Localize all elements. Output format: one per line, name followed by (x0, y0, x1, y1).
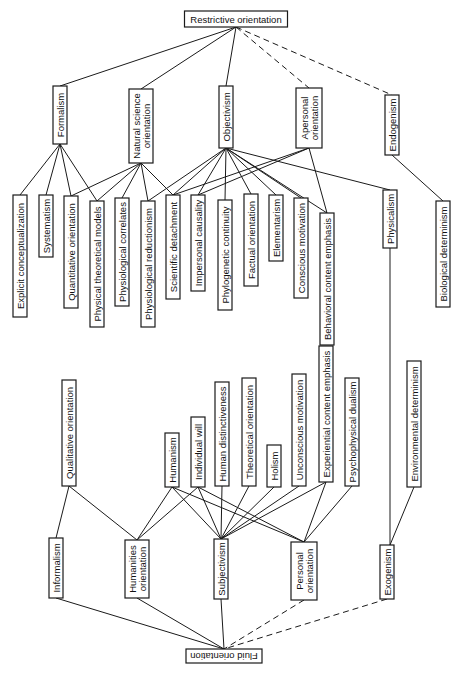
node-label: Psychophysical dualism (347, 381, 358, 482)
node-psychodual: Psychophysical dualism (345, 378, 359, 486)
edge-solid (56, 486, 69, 538)
node-label: Environmental determinism (409, 366, 420, 481)
edge-solid (198, 148, 226, 195)
node-label: Conscious motivation (296, 203, 307, 293)
node-physicalism: Physicalism (383, 190, 397, 248)
node-quantitative: Quantitative orientation (64, 196, 78, 308)
node-humdist: Human distinctiveness (215, 382, 229, 486)
node-objectivism: Objectivism (219, 86, 233, 148)
edge-dashed (224, 599, 387, 649)
node-label: Factual orientation (246, 201, 257, 279)
node-holism: Holism (267, 445, 281, 487)
diagram-nodes: Restrictive orientationFormalismNatural … (13, 11, 450, 663)
edge-solid (173, 148, 226, 195)
node-subjectivism: Subjectivism (214, 539, 228, 599)
node-endogenism: Endogenism (385, 95, 399, 155)
edge-dashed (236, 27, 309, 88)
node-label: Subjectivism (216, 542, 227, 595)
node-elementarism: Elementarism (269, 195, 283, 261)
node-label: Behavioral content emphasis (322, 218, 333, 340)
edge-solid (304, 482, 326, 542)
edge-solid (71, 163, 141, 196)
node-label: Physical theoretical models (92, 206, 103, 321)
node-physcorr: Physiological correlates (115, 198, 129, 306)
node-physmodels: Physical theoretical models (90, 201, 104, 327)
node-label: Fluid orientation (190, 651, 258, 662)
node-biodet: Biological determinism (436, 201, 450, 307)
node-humanities: Humanitiesorientation (125, 540, 149, 598)
node-label: orientation (304, 549, 315, 593)
node-theoretical: Theoretical orientation (242, 378, 256, 486)
node-label: Humanism (167, 437, 178, 482)
node-label: Quantitative orientation (66, 203, 77, 301)
node-label: Biological determinism (438, 206, 449, 301)
edge-solid (390, 487, 414, 545)
node-experiential: Experiential content emphasis (319, 346, 333, 482)
node-exogenism: Exogenism (380, 545, 394, 599)
node-label: Scientific detachment (168, 201, 179, 292)
node-label: Systematism (41, 199, 52, 253)
edge-solid (221, 486, 222, 539)
node-physred: Physiological reductionism (141, 201, 155, 327)
node-formalism: Formalism (53, 86, 67, 144)
node-label: Physicalism (385, 194, 396, 244)
node-factual: Factual orientation (244, 194, 258, 286)
edge-solid (137, 487, 198, 540)
edge-solid (172, 487, 304, 542)
node-label: Physiological correlates (117, 202, 128, 302)
node-label: orientation (141, 104, 152, 148)
node-label: Phylogenetic continuity (220, 206, 231, 303)
edge-solid (141, 27, 236, 89)
edge-solid (97, 163, 141, 201)
edge-solid (198, 487, 221, 539)
edge-solid (56, 598, 224, 649)
node-phylo: Phylogenetic continuity (218, 200, 232, 310)
node-label: Unconscious motivation (294, 380, 305, 480)
node-qualitative: Qualitative orientation (62, 380, 76, 486)
node-label: Physiological reductionism (143, 208, 154, 320)
node-apersonal: Apersonalorientation (296, 88, 322, 148)
node-scidet: Scientific detachment (166, 195, 180, 299)
node-explicit: Explicit conceptualization (13, 195, 27, 317)
node-label: Elementarism (271, 199, 282, 257)
orientation-hierarchy-diagram: Restrictive orientationFormalismNatural … (0, 0, 463, 673)
edge-solid (221, 599, 224, 649)
node-label: Impersonal causality (193, 199, 204, 286)
node-fluid: Fluid orientation (186, 649, 262, 663)
edge-solid (221, 482, 326, 539)
edge-solid (20, 144, 60, 195)
node-label: Objectivism (221, 92, 232, 141)
node-label: Endogenism (387, 99, 398, 152)
edge-solid (148, 148, 226, 201)
node-behav: Behavioral content emphasis (320, 213, 334, 345)
node-label: Informalism (51, 543, 62, 592)
edge-solid (225, 148, 226, 200)
node-label: Exogenism (382, 548, 393, 595)
node-label: Formalism (55, 93, 66, 137)
node-label: Human distinctiveness (217, 386, 228, 481)
edge-solid (122, 163, 141, 198)
node-label: Explicit conceptualization (15, 203, 26, 309)
node-envdet: Environmental determinism (407, 361, 421, 487)
node-label: Experiential content emphasis (321, 350, 332, 477)
edge-solid (198, 487, 304, 542)
edge-dashed (236, 27, 392, 95)
node-label: orientation (137, 547, 148, 591)
node-label: Qualitative orientation (64, 387, 75, 479)
node-consmot: Conscious motivation (294, 198, 308, 298)
edge-solid (46, 144, 60, 195)
edge-solid (137, 598, 224, 649)
node-label: Theoretical orientation (244, 385, 255, 479)
node-informalism: Informalism (49, 538, 63, 598)
node-label: Individual will (193, 424, 204, 480)
node-impcaus: Impersonal causality (191, 195, 205, 291)
node-label: orientation (309, 96, 320, 140)
edge-solid (226, 148, 251, 194)
edge-solid (226, 27, 236, 86)
edge-solid (226, 148, 390, 190)
edge-solid (226, 148, 276, 195)
node-natsci: Natural scienceorientation (129, 89, 153, 163)
node-personal: Personalorientation (291, 542, 317, 600)
edge-solid (304, 486, 352, 542)
edge-solid (392, 155, 443, 201)
